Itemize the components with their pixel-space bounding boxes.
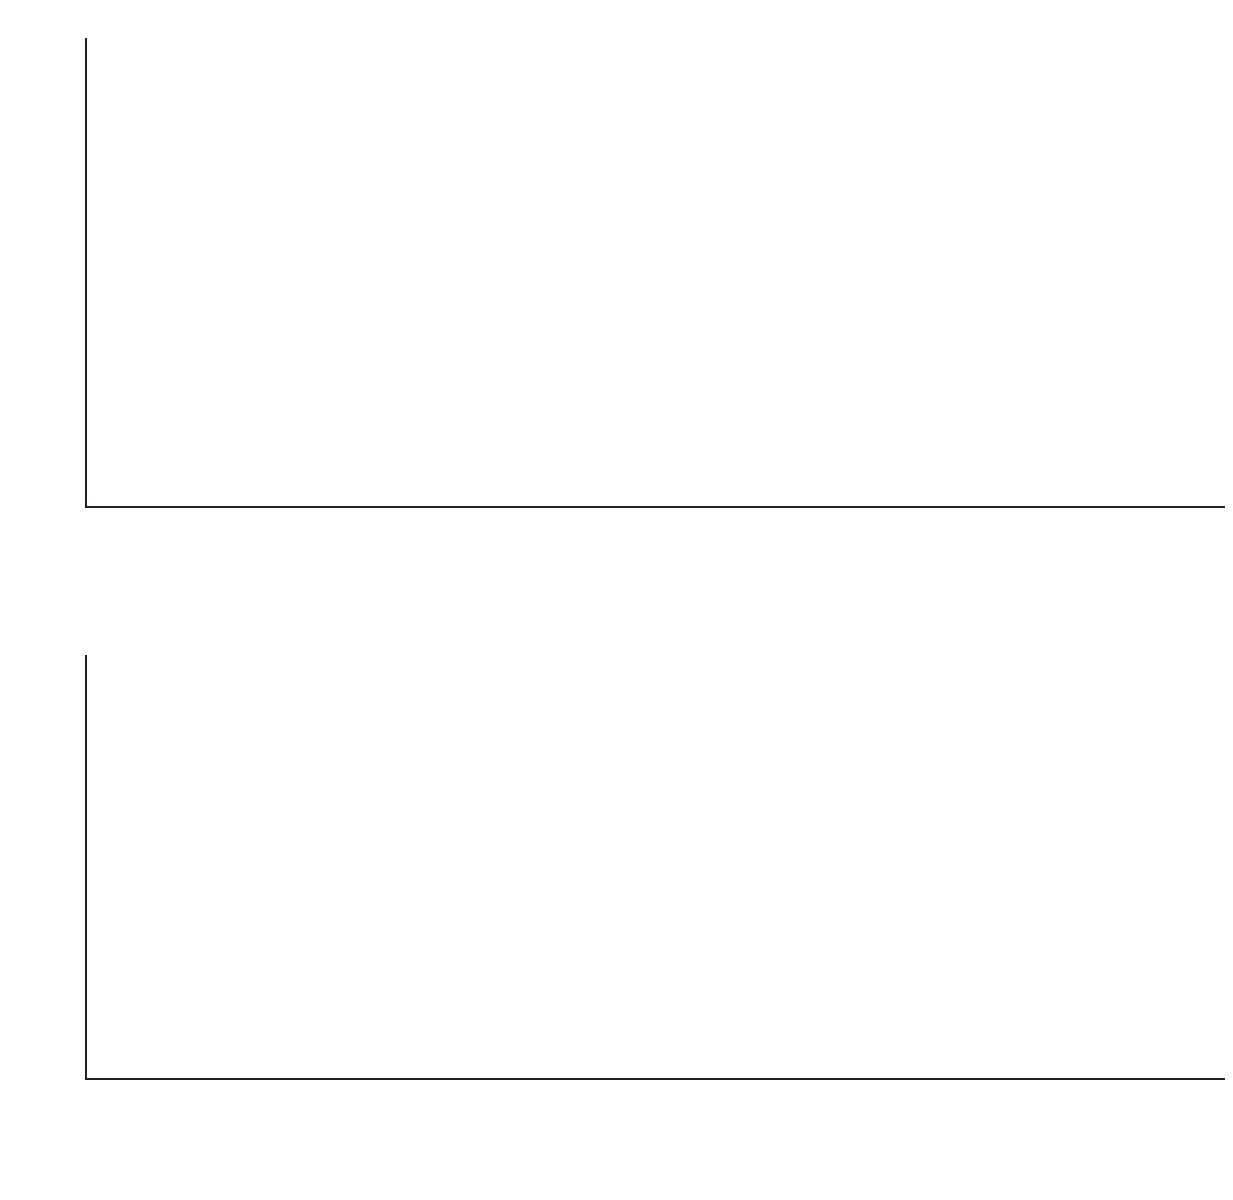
top-chart-bars — [87, 38, 1225, 506]
top-chart-x-axis-labels — [87, 514, 1225, 576]
region-groupings — [87, 1132, 1225, 1178]
bottom-chart-stacked-bars — [87, 655, 1225, 1078]
top-chart-x-axis-line — [85, 506, 1225, 508]
bottom-chart-y-axis-title — [6, 660, 28, 1080]
bottom-chart-x-axis-labels — [87, 1086, 1225, 1130]
bottom-chart-x-axis-line — [85, 1078, 1225, 1080]
top-chart-y-axis-title — [6, 22, 28, 492]
